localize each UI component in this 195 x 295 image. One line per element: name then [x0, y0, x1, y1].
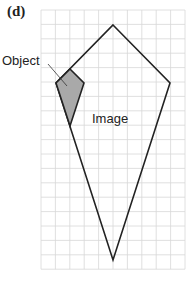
enlargement-diagram [0, 0, 195, 295]
part-label: (d) [7, 3, 25, 20]
object-label: Object [2, 53, 40, 68]
image-label: Image [92, 111, 128, 126]
square-grid [41, 10, 185, 269]
